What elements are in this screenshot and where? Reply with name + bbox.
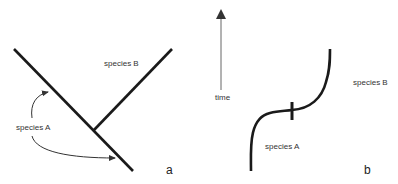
species-a-label-b: species A bbox=[265, 142, 300, 151]
panel-label-a: a bbox=[166, 163, 173, 177]
species-b-label-a: species B bbox=[104, 59, 139, 68]
panel-a: species B species A a bbox=[14, 49, 173, 177]
time-label: time bbox=[215, 93, 231, 102]
panel-label-b: b bbox=[364, 163, 371, 177]
species-b-label-b: species B bbox=[353, 78, 388, 87]
panel-b: time species B species A b bbox=[215, 14, 388, 177]
evolution-diagram: species B species A a time species B spe… bbox=[0, 0, 398, 184]
species-a-label-a: species A bbox=[16, 123, 51, 132]
arrow-upper-icon bbox=[32, 92, 48, 118]
lineage-s-curve bbox=[251, 49, 330, 171]
